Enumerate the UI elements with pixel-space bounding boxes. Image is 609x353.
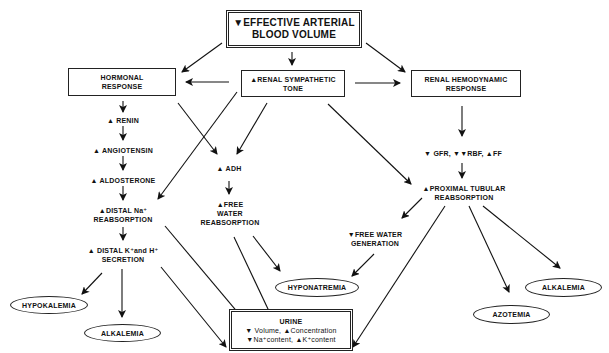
hypokalemia-ellipse: HYPOKALEMIA <box>10 296 88 314</box>
aldosterone-label: ▲ ALDOSTERONE <box>70 176 176 185</box>
renal-sympathetic-tone-box: ▲RENAL SYMPATHETIC TONE <box>241 70 345 97</box>
distal-kh-secretion-label: ▲ DISTAL K⁺and H⁺ SECRETION <box>70 246 176 264</box>
proximal-line1: ▲PROXIMAL TUBULAR <box>414 184 514 193</box>
free-water-gen-line1: ▼FREE WATER <box>340 230 410 239</box>
distal-kh-line2: SECRETION <box>70 255 176 264</box>
distal-kh-line1: ▲ DISTAL K⁺and H⁺ <box>70 246 176 255</box>
hormonal-line1: HORMONAL <box>101 73 144 82</box>
hypokalemia-text: HYPOKALEMIA <box>22 301 76 310</box>
top-box-line2: BLOOD VOLUME <box>252 29 336 41</box>
hemodynamic-line1: RENAL HEMODYNAMIC <box>425 75 508 84</box>
distal-na-reabsorption-label: ▲DISTAL Na⁺ REABSORPTION <box>76 206 170 224</box>
distal-na-line1: ▲DISTAL Na⁺ <box>76 206 170 215</box>
proximal-tubular-reabsorption-label: ▲PROXIMAL TUBULAR REABSORPTION <box>414 184 514 202</box>
effective-arterial-blood-volume-box: ▼EFFECTIVE ARTERIAL BLOOD VOLUME <box>226 10 362 48</box>
sympathetic-line2: TONE <box>283 84 303 93</box>
alkalemia-right-text: ALKALEMIA <box>542 283 585 292</box>
sympathetic-line1: ▲RENAL SYMPATHETIC <box>250 75 336 84</box>
urine-line2: ▼Na⁺content, ▲K⁺content <box>246 335 335 344</box>
renin-label: ▲ RENIN <box>80 116 166 125</box>
proximal-line2: REABSORPTION <box>414 193 514 202</box>
alkalemia-left-ellipse: ALKALEMIA <box>84 324 161 342</box>
hyponatremia-text: HYPONATREMIA <box>288 283 347 292</box>
free-water-gen-line2: GENERATION <box>340 239 410 248</box>
free-water-generation-label: ▼FREE WATER GENERATION <box>340 230 410 248</box>
free-water-line3: REABSORPTION <box>192 218 268 227</box>
hemodynamic-line2: RESPONSE <box>446 84 487 93</box>
alkalemia-right-ellipse: ALKALEMIA <box>525 278 602 297</box>
azotemia-text: AZOTEMIA <box>492 310 530 319</box>
free-water-reabsorption-label: ▲FREE WATER REABSORPTION <box>192 200 268 227</box>
free-water-line1: ▲FREE <box>192 200 268 209</box>
azotemia-ellipse: AZOTEMIA <box>473 305 550 324</box>
urine-box: URINE ▼ Volume, ▲Concentration ▼Na⁺conte… <box>229 309 353 351</box>
top-box-line1: ▼EFFECTIVE ARTERIAL <box>233 17 355 29</box>
free-water-line2: WATER <box>192 209 268 218</box>
distal-na-line2: REABSORPTION <box>76 215 170 224</box>
urine-title: URINE <box>280 317 303 326</box>
hormonal-response-box: HORMONAL RESPONSE <box>68 68 176 96</box>
adh-label: ▲ ADH <box>205 164 253 173</box>
alkalemia-left-text: ALKALEMIA <box>101 329 144 338</box>
gfr-rbf-ff-label: ▼ GFR, ▼▼RBF, ▲FF <box>418 149 508 158</box>
urine-line1: ▼ Volume, ▲Concentration <box>245 326 336 335</box>
angiotensin-label: ▲ ANGIOTENSIN <box>70 146 176 155</box>
renal-hemodynamic-response-box: RENAL HEMODYNAMIC RESPONSE <box>411 70 521 97</box>
hormonal-line2: RESPONSE <box>102 82 143 91</box>
hyponatremia-ellipse: HYPONATREMIA <box>275 278 359 297</box>
